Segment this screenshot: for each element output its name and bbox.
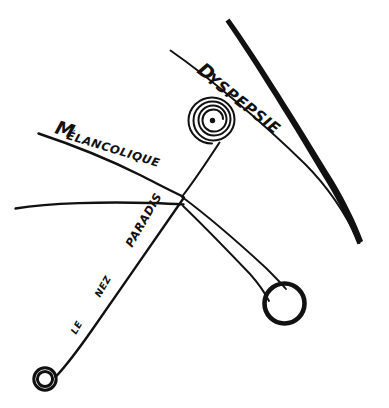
spiral-center-dot <box>210 118 215 123</box>
drawing-canvas: D YSPEPSIE M ÉLANCOLIQUE PARADIS NEZ LE <box>0 0 389 408</box>
line-drawing: D YSPEPSIE M ÉLANCOLIQUE PARADIS NEZ LE <box>0 0 389 408</box>
